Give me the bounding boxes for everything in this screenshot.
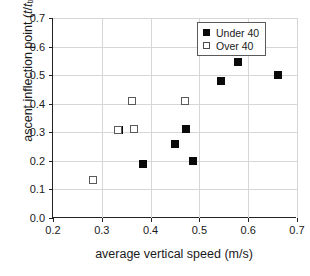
x-axis-tick: [199, 218, 200, 222]
data-point-under-40: [234, 58, 242, 66]
chart-legend: Under 40 Over 40: [197, 22, 266, 56]
gridline-horizontal: [53, 132, 297, 133]
y-axis-tick: [49, 132, 53, 133]
y-axis-label-t-numerator: t: [21, 10, 35, 13]
x-axis-tick: [248, 218, 249, 222]
y-axis-tick: [49, 104, 53, 105]
x-axis-tick-label: 0.7: [289, 224, 304, 236]
gridline-horizontal: [53, 189, 297, 190]
data-point-under-40: [274, 71, 282, 79]
filled-square-icon: [203, 29, 210, 36]
data-point-over-40: [89, 176, 97, 184]
data-point-over-40: [181, 97, 189, 105]
gridline-horizontal: [53, 161, 297, 162]
x-axis-label: average vertical speed (m/s): [52, 247, 296, 261]
x-axis-tick: [53, 218, 54, 222]
scatter-chart-figure: 0.00.10.20.30.40.50.60.70.20.30.40.50.60…: [0, 0, 310, 276]
gridline-vertical: [102, 18, 103, 218]
y-axis-tick-label: 0.0: [30, 212, 45, 224]
y-axis-tick: [49, 161, 53, 162]
x-axis-tick-label: 0.2: [45, 224, 60, 236]
y-axis-label-slash: /: [21, 7, 35, 10]
y-axis-tick: [49, 18, 53, 19]
open-square-icon: [203, 42, 210, 49]
data-point-under-40: [182, 125, 190, 133]
x-axis-tick-label: 0.6: [241, 224, 256, 236]
y-axis-label-prefix: ascent inflection point (: [21, 14, 35, 142]
data-point-under-40: [139, 160, 147, 168]
data-point-under-40: [189, 157, 197, 165]
data-point-under-40: [217, 77, 225, 85]
x-axis-tick: [297, 218, 298, 222]
y-axis-tick: [49, 75, 53, 76]
x-axis-tick-label: 0.4: [143, 224, 158, 236]
legend-label-over-40: Over 40: [216, 40, 253, 52]
legend-item-under-40[interactable]: Under 40: [203, 26, 259, 39]
gridline-vertical: [151, 18, 152, 218]
gridline-horizontal: [53, 104, 297, 105]
y-axis-tick-label: 0.1: [30, 183, 45, 195]
x-axis-tick: [151, 218, 152, 222]
legend-label-under-40: Under 40: [216, 27, 259, 39]
data-point-over-40: [114, 126, 122, 134]
gridline-vertical: [297, 18, 298, 218]
y-axis-tick: [49, 47, 53, 48]
x-axis-tick: [102, 218, 103, 222]
data-point-over-40: [128, 97, 136, 105]
data-point-under-40: [171, 140, 179, 148]
data-point-over-40: [130, 125, 138, 133]
gridline-horizontal: [53, 75, 297, 76]
gridline-horizontal: [53, 18, 297, 19]
x-axis-tick-label: 0.5: [192, 224, 207, 236]
y-axis-label-t-denominator: t: [21, 3, 35, 6]
y-axis-label: ascent inflection point (t/ttrace): [21, 0, 36, 150]
y-axis-tick: [49, 189, 53, 190]
legend-item-over-40[interactable]: Over 40: [203, 39, 259, 52]
y-axis-tick-label: 0.2: [30, 155, 45, 167]
x-axis-tick-label: 0.3: [94, 224, 109, 236]
y-axis-label-subscript: trace: [25, 0, 35, 3]
